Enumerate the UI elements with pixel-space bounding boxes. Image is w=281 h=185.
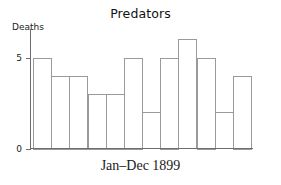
bars-group (34, 40, 252, 150)
bar-jan (34, 59, 52, 150)
bar-chart-figure: Predators Deaths 05 Jan–Dec 1899 (0, 0, 281, 185)
bar-oct (198, 59, 216, 150)
y-tick-label-0: 0 (16, 144, 22, 154)
bar-jun (125, 59, 143, 150)
bar-feb (52, 77, 70, 150)
bar-may (107, 95, 125, 150)
y-tick-label-5: 5 (16, 53, 22, 63)
bar-sep (179, 40, 197, 149)
bar-apr (89, 95, 107, 150)
bar-nov (216, 113, 234, 149)
bar-dec (234, 77, 252, 150)
bar-jul (143, 113, 161, 149)
bar-aug (161, 59, 179, 150)
x-axis-label: Jan–Dec 1899 (0, 158, 281, 174)
y-axis-ticks: 05 (16, 53, 30, 154)
bar-mar (70, 77, 88, 150)
